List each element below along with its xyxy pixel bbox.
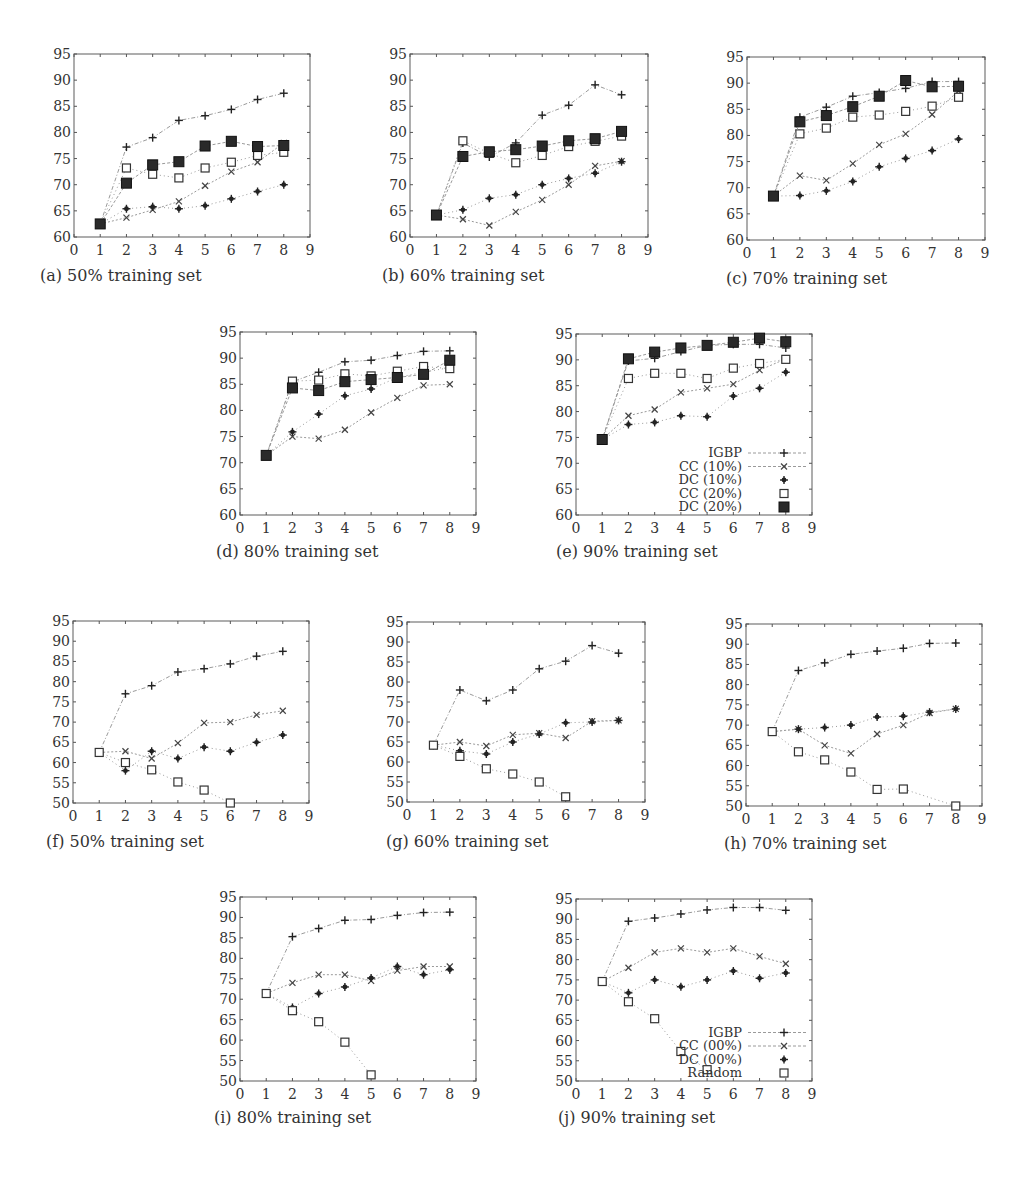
y-tick-label: 95 — [555, 891, 573, 907]
x-tick-label: 2 — [624, 1086, 633, 1102]
y-tick-label: 90 — [555, 911, 573, 927]
y-tick-label: 65 — [555, 1012, 573, 1028]
y-tick-label: 60 — [555, 1033, 573, 1049]
y-tick-label: 55 — [555, 1053, 573, 1069]
y-tick-label: 50 — [555, 1073, 573, 1089]
series-dc-00 — [598, 967, 790, 997]
x-tick-label: 3 — [650, 1086, 659, 1102]
chart-legend: IGBPCC (00%)DC (00%)Random — [678, 1025, 806, 1081]
legend-entry-label: Random — [687, 1065, 742, 1080]
x-tick-label: 4 — [676, 1086, 685, 1102]
chart-caption-j: (j) 90% training set — [558, 1108, 715, 1127]
x-tick-label: 7 — [755, 1086, 764, 1102]
y-tick-label: 85 — [555, 931, 573, 947]
y-tick-label: 75 — [555, 972, 573, 988]
x-tick-label: 6 — [729, 1086, 738, 1102]
series-igbp — [598, 903, 790, 985]
x-tick-label: 5 — [703, 1086, 712, 1102]
x-tick-label: 1 — [598, 1086, 607, 1102]
chart-svg-j: 012345678950556065707580859095IGBPCC (00… — [0, 0, 1036, 1177]
y-tick-label: 80 — [555, 952, 573, 968]
x-tick-label: 8 — [781, 1086, 790, 1102]
y-tick-label: 70 — [555, 992, 573, 1008]
x-tick-label: 9 — [808, 1086, 817, 1102]
